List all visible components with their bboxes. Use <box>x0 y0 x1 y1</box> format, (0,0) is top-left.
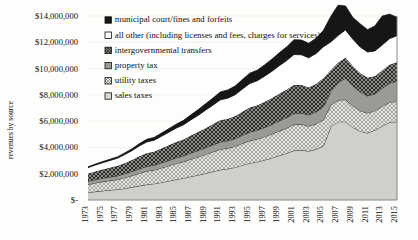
y-tick-label: $10,000,000 <box>35 64 78 74</box>
legend-label: sales taxes <box>115 90 153 100</box>
x-tick-label: 1985 <box>169 206 178 223</box>
x-tick-label: 1977 <box>110 206 119 223</box>
y-tick-label: $4,000,000 <box>39 142 78 152</box>
y-tick-label: $6,000,000 <box>39 116 78 126</box>
y-axis-tick-labels: $14,000,000$12,000,000$10,000,000$8,000,… <box>35 11 78 205</box>
x-tick-label: 1975 <box>96 206 105 223</box>
x-tick-label: 1987 <box>184 206 193 223</box>
legend-swatch <box>105 47 111 53</box>
legend-label: intergovernmental transfers <box>115 45 212 55</box>
x-tick-label: 2003 <box>302 206 311 223</box>
y-axis-title: revenues by source <box>6 100 15 159</box>
legend-swatch <box>105 78 111 84</box>
legend-swatch <box>105 32 111 38</box>
x-tick-label: 1989 <box>199 206 208 223</box>
y-tick-label: $14,000,000 <box>35 11 78 21</box>
legend-swatch <box>105 62 111 68</box>
x-tick-label: 1999 <box>272 206 281 223</box>
y-tick-label: $8,000,000 <box>39 90 78 100</box>
x-tick-label: 2007 <box>331 206 340 223</box>
y-tick-label: $- <box>71 195 78 205</box>
x-axis-tick-labels: 1973197519771979198119831985198719891991… <box>81 206 399 223</box>
x-tick-label: 2009 <box>346 206 355 223</box>
y-tick-label: $2,000,000 <box>39 169 78 179</box>
x-tick-label: 1981 <box>140 206 149 223</box>
y-tick-label: $12,000,000 <box>35 37 78 47</box>
x-tick-label: 2005 <box>316 206 325 223</box>
x-tick-label: 1993 <box>228 206 237 223</box>
chart-canvas: $14,000,000$12,000,000$10,000,000$8,000,… <box>0 0 418 240</box>
x-tick-label: 1983 <box>155 206 164 223</box>
x-tick-label: 2001 <box>287 206 296 223</box>
legend-label: property tax <box>115 60 158 70</box>
legend-swatch <box>105 17 111 23</box>
x-tick-label: 1973 <box>81 206 90 223</box>
legend-swatch <box>105 93 111 99</box>
revenue-by-source-chart: $14,000,000$12,000,000$10,000,000$8,000,… <box>0 0 418 240</box>
x-tick-label: 1979 <box>125 206 134 223</box>
legend-label: all other (including licenses and fees, … <box>115 30 321 40</box>
x-tick-label: 1995 <box>243 206 252 223</box>
x-tick-label: 1997 <box>258 206 267 223</box>
x-tick-label: 1991 <box>213 206 222 223</box>
legend-label: utility taxes <box>115 75 157 85</box>
x-tick-label: 2011 <box>361 206 370 222</box>
x-tick-label: 2013 <box>375 206 384 223</box>
legend-label: municipal court/fines and forfeits <box>115 14 233 24</box>
x-tick-label: 2015 <box>390 206 399 223</box>
